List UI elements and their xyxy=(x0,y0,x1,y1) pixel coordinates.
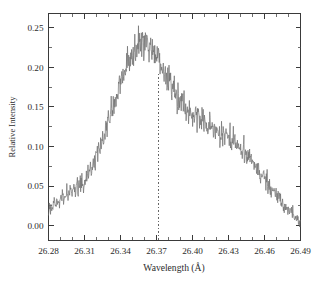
y-tick-label: 0.25 xyxy=(27,23,43,33)
x-tick-label: 26.46 xyxy=(254,246,275,256)
x-tick-label: 26.43 xyxy=(218,246,239,256)
x-tick-label: 26.34 xyxy=(110,246,131,256)
x-axis-minor-ticks xyxy=(61,14,289,241)
y-tick-label: 0.00 xyxy=(27,221,43,231)
x-axis-tick-labels: 26.2826.3126.3426.3726.4026.4326.4626.49 xyxy=(38,246,311,256)
y-tick-label: 0.10 xyxy=(27,142,43,152)
y-axis-major-ticks xyxy=(49,28,301,226)
x-tick-label: 26.49 xyxy=(290,246,311,256)
y-tick-label: 0.05 xyxy=(27,181,43,191)
x-axis-major-ticks xyxy=(49,14,301,241)
y-axis-minor-ticks xyxy=(49,48,301,206)
spectrum-figure: 26.2826.3126.3426.3726.4026.4326.4626.49… xyxy=(0,0,320,287)
x-tick-label: 26.37 xyxy=(146,246,167,256)
y-axis-title: Relative Intensity xyxy=(7,96,17,158)
plot-frame xyxy=(49,14,301,241)
data-series-layer xyxy=(49,26,301,227)
spectrum-chart: 26.2826.3126.3426.3726.4026.4326.4626.49… xyxy=(0,0,320,287)
x-axis-title: Wavelength (Å) xyxy=(143,262,204,274)
y-tick-label: 0.15 xyxy=(27,102,43,112)
spectrum-trace xyxy=(49,26,301,227)
y-tick-label: 0.20 xyxy=(27,63,43,73)
x-tick-label: 26.28 xyxy=(38,246,59,256)
x-tick-label: 26.31 xyxy=(74,246,95,256)
x-tick-label: 26.40 xyxy=(182,246,203,256)
y-axis-tick-labels: 0.000.050.100.150.200.25 xyxy=(27,23,43,231)
